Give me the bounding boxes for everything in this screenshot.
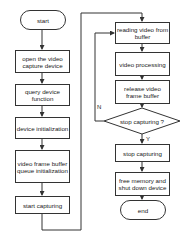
step-label: open the video capture device [16,55,69,69]
step-video-processing: video processing [115,52,170,76]
step-open-device: open the video capture device [15,50,70,73]
end-terminal: end [120,200,166,220]
step-reading-video: reading video from buffer [115,22,170,44]
step-free-memory: free memory and shut down device [115,172,170,196]
no-label: N [97,104,101,110]
end-label: end [138,207,148,214]
step-label: video processing [119,61,165,68]
yes-label: Y [146,136,150,142]
step-label: video frame buffer queue initialization [16,160,69,174]
step-stop-capturing: stop capturing [115,144,170,162]
step-buffer-queue-init: video frame buffer queue initialization [15,150,70,183]
step-label: start capturing [23,202,62,209]
step-device-init: device initialization [15,117,70,139]
step-start-capturing: start capturing [15,196,70,214]
decision-label: stop capturing ? [120,118,164,125]
step-label: query device function [16,88,69,102]
step-label: release video frame buffer [116,85,169,99]
step-query-function: query device function [15,84,70,106]
start-label: start [37,17,49,24]
decision-stop-capturing: stop capturing ? [112,115,172,127]
step-label: reading video from buffer [116,26,169,40]
step-release-buffer: release video frame buffer [115,80,170,104]
step-label: device initialization [17,125,69,132]
step-label: free memory and shut down device [116,177,169,191]
step-label: stop capturing [123,150,162,157]
start-terminal: start [20,10,66,30]
